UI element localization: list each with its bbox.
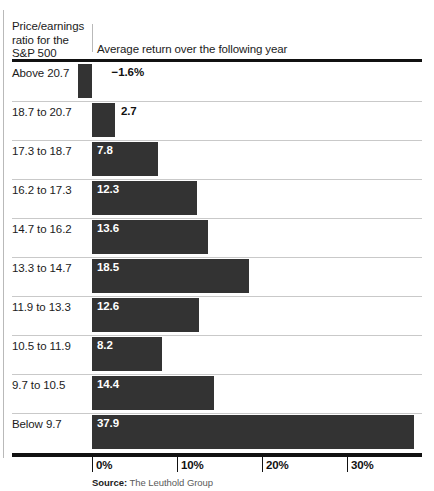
row-separator	[12, 296, 422, 297]
category-label: 14.7 to 16.2	[12, 223, 86, 236]
tick-mark	[347, 457, 348, 472]
tick-label: 10%	[181, 459, 204, 471]
row-separator	[12, 179, 422, 180]
category-label: 9.7 to 10.5	[12, 379, 86, 392]
source-name: The Leuthold Group	[129, 477, 213, 488]
chart-subtitle: Average return over the following year	[97, 43, 287, 56]
category-label: Below 9.7	[12, 418, 86, 431]
chart-row: 13.3 to 14.718.5	[0, 257, 434, 296]
chart-row: 18.7 to 20.72.7	[0, 101, 434, 140]
chart-row: 10.5 to 11.98.2	[0, 335, 434, 374]
bar	[92, 103, 115, 137]
x-axis-line	[12, 456, 422, 457]
row-separator	[12, 413, 422, 414]
chart-row: 16.2 to 17.312.3	[0, 179, 434, 218]
source-note: Source: The Leuthold Group	[92, 477, 213, 488]
bar-value-label: 7.8	[97, 144, 113, 157]
row-separator	[12, 335, 422, 336]
chart-row: Below 9.737.9	[0, 413, 434, 452]
bar-value-label: 37.9	[97, 417, 119, 430]
tick-label: 30%	[351, 459, 374, 471]
tick-label: 20%	[266, 459, 289, 471]
category-label: 18.7 to 20.7	[12, 106, 86, 119]
chart-row: 11.9 to 13.312.6	[0, 296, 434, 335]
bar-value-label: 12.6	[97, 300, 119, 313]
tick-mark	[262, 457, 263, 472]
bar-value-label: 12.3	[97, 183, 119, 196]
chart-row: 14.7 to 16.213.6	[0, 218, 434, 257]
row-separator	[12, 101, 422, 102]
row-separator	[12, 218, 422, 219]
bar-value-label: 8.2	[97, 339, 113, 352]
row-header-title: Price/earnings ratio for the S&P 500	[12, 20, 90, 61]
category-label: Above 20.7	[12, 67, 86, 80]
bar	[78, 64, 92, 98]
bar-value-label: 18.5	[97, 261, 119, 274]
category-label: 16.2 to 17.3	[12, 184, 86, 197]
tick-mark	[92, 457, 93, 472]
chart-row: Above 20.7−1.6%	[0, 62, 434, 101]
header-divider	[92, 24, 93, 52]
row-separator	[12, 257, 422, 258]
source-label: Source:	[92, 477, 127, 488]
bar-value-label: 14.4	[97, 378, 119, 391]
category-label: 10.5 to 11.9	[12, 340, 86, 353]
bar-value-label: 2.7	[121, 105, 137, 118]
bar-value-label: −1.6%	[112, 66, 144, 79]
row-separator	[12, 374, 422, 375]
chart-container: Price/earnings ratio for the S&P 500 Ave…	[0, 0, 434, 491]
chart-header: Price/earnings ratio for the S&P 500 Ave…	[0, 0, 434, 60]
category-label: 17.3 to 18.7	[12, 145, 86, 158]
tick-label: 0%	[96, 459, 112, 471]
category-label: 11.9 to 13.3	[12, 301, 86, 314]
chart-row: 9.7 to 10.514.4	[0, 374, 434, 413]
plot-area: Above 20.7−1.6%18.7 to 20.72.717.3 to 18…	[0, 62, 434, 453]
tick-mark	[177, 457, 178, 472]
chart-row: 17.3 to 18.77.8	[0, 140, 434, 179]
x-axis: 0%10%20%30%	[0, 456, 434, 478]
row-separator	[12, 140, 422, 141]
category-label: 13.3 to 14.7	[12, 262, 86, 275]
bar	[92, 415, 414, 449]
bar-value-label: 13.6	[97, 222, 119, 235]
